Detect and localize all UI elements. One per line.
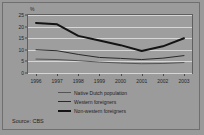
series-line xyxy=(36,23,184,51)
x-axis-tick xyxy=(121,74,122,76)
y-axis-labels: 0510152025 xyxy=(11,14,26,74)
series-line xyxy=(36,50,184,60)
y-axis-tick-label: 25 xyxy=(18,12,24,18)
legend-item[interactable]: Non-western foreigners xyxy=(58,106,168,115)
y-axis-tick-label: 15 xyxy=(18,35,24,41)
x-axis-tick-label: 1998 xyxy=(73,78,84,84)
chart-figure: % 0510152025 199619971998199920002001200… xyxy=(0,0,204,135)
legend-line-swatch xyxy=(58,101,71,102)
x-axis-tick xyxy=(78,74,79,76)
x-axis-tick xyxy=(99,74,100,76)
y-axis-tick-label: 5 xyxy=(21,58,24,64)
x-axis-tick xyxy=(142,74,143,76)
chart-legend: Native Dutch populationWestern foreigner… xyxy=(58,88,168,115)
source-note: Source: CBS xyxy=(12,118,44,125)
legend-item[interactable]: Native Dutch population xyxy=(58,88,168,97)
legend-line-swatch xyxy=(58,92,71,93)
gridline xyxy=(28,73,192,74)
figure-frame: % 0510152025 199619971998199920002001200… xyxy=(2,2,200,130)
y-axis-tick-label: 10 xyxy=(18,47,24,53)
x-axis-labels: 19961997199819992000200120022003 xyxy=(27,76,193,86)
y-axis-unit-label: % xyxy=(30,6,34,12)
x-axis-tick-label: 1996 xyxy=(30,78,41,84)
legend-item-label: Native Dutch population xyxy=(74,90,127,96)
x-axis-tick-label: 1997 xyxy=(52,78,63,84)
x-axis-tick-label: 2001 xyxy=(136,78,147,84)
x-axis-tick xyxy=(184,74,185,76)
x-axis-tick xyxy=(57,74,58,76)
y-axis-tick-label: 0 xyxy=(21,70,24,76)
y-axis-tick-label: 20 xyxy=(18,24,24,30)
legend-item-label: Non-western foreigners xyxy=(74,108,126,114)
x-axis-tick xyxy=(36,74,37,76)
legend-item-label: Western foreigners xyxy=(74,99,116,105)
series-line xyxy=(36,59,184,64)
plot-area xyxy=(27,14,193,74)
x-axis-tick-label: 2002 xyxy=(157,78,168,84)
x-axis-tick-label: 1999 xyxy=(94,78,105,84)
legend-line-swatch xyxy=(58,110,71,112)
x-axis-tick-label: 2003 xyxy=(178,78,189,84)
legend-item[interactable]: Western foreigners xyxy=(58,97,168,106)
x-axis-tick-label: 2000 xyxy=(115,78,126,84)
x-axis-tick xyxy=(163,74,164,76)
series-lines xyxy=(28,15,192,73)
